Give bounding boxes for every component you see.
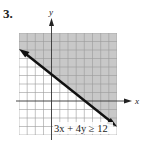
inequality-label: 3x + 4y ≥ 12 (54, 123, 108, 134)
inequality-graph: x y 3x + 4y ≥ 12 (0, 0, 145, 145)
x-axis-label: x (134, 96, 139, 106)
x-axis-arrow-icon (124, 99, 132, 104)
y-axis-arrow-icon (49, 18, 54, 26)
y-axis-label: y (48, 7, 53, 17)
